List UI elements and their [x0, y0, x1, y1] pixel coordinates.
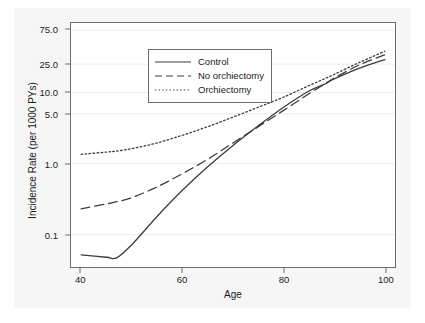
y-axis-tick-label: 5.0 — [45, 108, 58, 119]
x-axis-tick-label: 40 — [75, 274, 86, 285]
x-axis-tick-label: 80 — [279, 274, 290, 285]
plot-area: Control No orchiectomy Orchiectomy — [70, 22, 396, 268]
y-axis-label: Incidence Rate (per 1000 PYs) — [27, 51, 38, 251]
x-axis-tick-mark — [283, 268, 284, 273]
y-axis-tick-label: 25.0 — [40, 58, 59, 69]
y-axis-tick-label: 0.1 — [45, 230, 58, 241]
x-axis-tick-mark — [80, 268, 81, 273]
figure: 0.11.05.010.025.075.0 406080100 Control — [0, 0, 425, 323]
legend-item-orchiectomy: Orchiectomy — [154, 83, 265, 97]
legend-key-dotted-line-icon — [154, 85, 192, 95]
x-axis-tick-mark — [385, 268, 386, 273]
legend-key-dashed-line-icon — [154, 71, 192, 81]
legend-item-control: Control — [154, 55, 265, 69]
x-axis-tick-mark — [182, 268, 183, 273]
legend-item-no-orchiectomy: No orchiectomy — [154, 69, 265, 83]
x-axis-label: Age — [70, 289, 396, 300]
legend-key-solid-line-icon — [154, 57, 192, 67]
y-axis-tick-label: 10.0 — [40, 87, 59, 98]
legend-label-control: Control — [198, 57, 229, 67]
y-axis-tick-label: 1.0 — [45, 158, 58, 169]
legend-label-orchiectomy: Orchiectomy — [198, 85, 251, 95]
x-axis-tick-label: 100 — [378, 274, 394, 285]
legend: Control No orchiectomy Orchiectomy — [148, 49, 272, 103]
y-axis-tick-label: 75.0 — [40, 24, 59, 35]
legend-label-no-orchiectomy: No orchiectomy — [198, 71, 264, 81]
x-axis-tick-label: 60 — [177, 274, 188, 285]
